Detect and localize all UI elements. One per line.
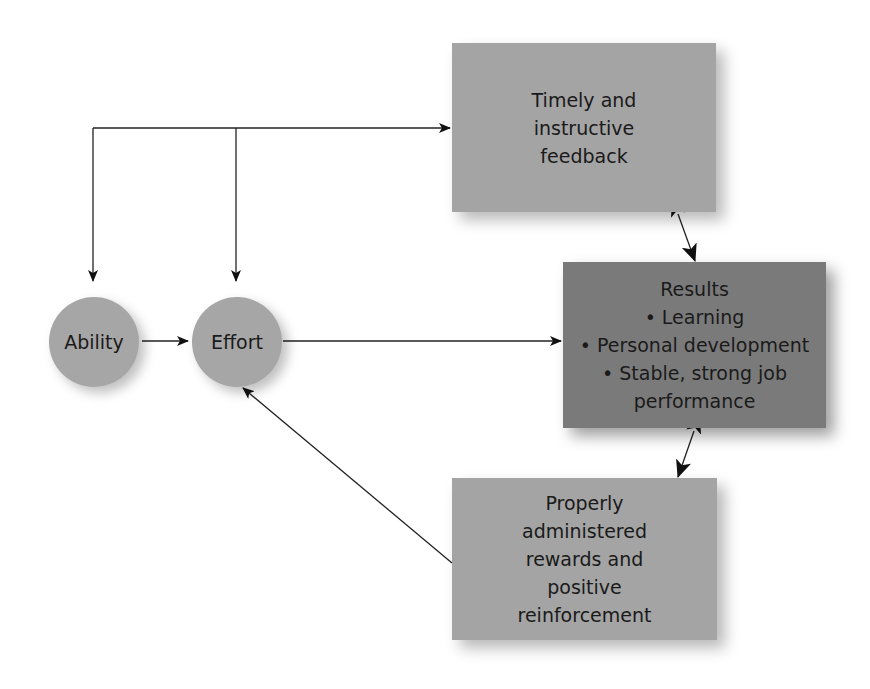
feedback-results-double-arrow: [678, 214, 695, 261]
rewards-line: administered: [522, 517, 647, 545]
rewards-line: Properly: [545, 489, 623, 517]
results-item: • Learning: [645, 303, 745, 331]
ability-label: Ability: [64, 328, 124, 356]
effort-label: Effort: [211, 328, 263, 356]
rewards-box: Properly administered rewards and positi…: [452, 478, 717, 640]
feedback-box: Timely and instructive feedback: [452, 43, 716, 212]
rewards-to-effort-arrow: [243, 388, 452, 563]
results-item: • Personal development: [580, 331, 809, 359]
results-box: Results • Learning • Personal developmen…: [563, 262, 826, 428]
feedback-line: instructive: [534, 114, 635, 142]
results-item: • Stable, strong job: [602, 359, 787, 387]
effort-node: Effort: [192, 297, 282, 387]
results-rewards-double-arrow: [678, 431, 694, 477]
results-item: performance: [634, 387, 756, 415]
rewards-line: rewards and: [526, 545, 644, 573]
feedback-line: feedback: [540, 142, 627, 170]
ability-node: Ability: [49, 297, 139, 387]
feedback-line: Timely and: [532, 86, 637, 114]
rewards-line: positive: [547, 573, 622, 601]
results-title: Results: [660, 275, 729, 303]
rewards-line: reinforcement: [518, 601, 652, 629]
feedback-loop-lines: [93, 128, 450, 281]
